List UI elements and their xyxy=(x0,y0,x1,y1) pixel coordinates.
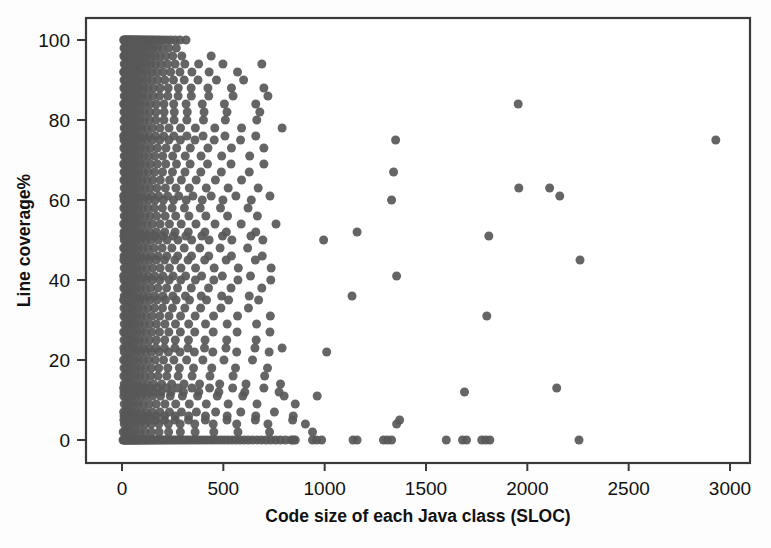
data-point xyxy=(211,408,220,417)
data-point xyxy=(191,276,200,285)
data-point xyxy=(160,400,169,409)
data-point xyxy=(161,144,170,153)
data-point xyxy=(168,152,177,161)
data-point xyxy=(164,420,173,429)
data-point xyxy=(259,84,268,93)
data-point xyxy=(164,328,173,337)
data-point xyxy=(177,220,186,229)
data-point xyxy=(165,264,174,273)
data-point xyxy=(186,144,195,153)
data-point xyxy=(177,52,186,61)
data-point xyxy=(317,436,326,445)
data-point xyxy=(176,420,185,429)
data-point xyxy=(233,428,242,437)
data-point xyxy=(222,336,231,345)
data-point xyxy=(152,336,161,345)
data-point xyxy=(242,380,251,389)
data-point xyxy=(155,136,164,145)
data-point xyxy=(155,124,164,133)
data-point xyxy=(160,256,169,265)
data-point xyxy=(156,220,165,229)
data-point xyxy=(150,244,159,253)
data-point xyxy=(263,92,272,101)
data-point xyxy=(163,364,172,373)
data-point xyxy=(199,132,208,141)
data-point xyxy=(221,344,230,353)
data-point xyxy=(187,236,196,245)
data-point xyxy=(232,420,241,429)
data-point xyxy=(217,152,226,161)
data-point xyxy=(150,204,159,213)
data-point xyxy=(148,392,157,401)
data-point xyxy=(207,364,216,373)
data-point xyxy=(181,168,190,177)
data-point xyxy=(171,60,180,69)
data-point xyxy=(246,272,255,281)
data-point xyxy=(172,144,181,153)
data-point xyxy=(159,116,168,125)
data-point xyxy=(190,136,199,145)
data-point xyxy=(156,176,165,185)
data-point xyxy=(485,436,494,445)
data-point xyxy=(217,168,226,177)
data-point xyxy=(392,420,401,429)
data-point xyxy=(263,420,272,429)
data-point xyxy=(267,264,276,273)
data-point xyxy=(229,92,238,101)
data-point xyxy=(180,244,189,253)
data-point xyxy=(202,296,211,305)
data-point xyxy=(253,212,262,221)
data-point xyxy=(152,108,161,117)
data-point xyxy=(156,84,165,93)
data-point xyxy=(200,256,209,265)
data-point xyxy=(223,320,232,329)
data-point xyxy=(576,256,585,265)
data-point xyxy=(152,100,161,109)
data-point xyxy=(175,68,184,77)
data-point xyxy=(152,400,161,409)
data-point xyxy=(260,372,269,381)
x-tick-label: 2000 xyxy=(506,478,548,499)
data-point xyxy=(162,372,171,381)
data-point xyxy=(171,184,180,193)
data-point xyxy=(257,60,266,69)
data-point xyxy=(259,160,268,169)
data-point xyxy=(514,100,523,109)
data-point xyxy=(164,348,173,357)
data-point xyxy=(322,348,331,357)
data-point xyxy=(252,400,261,409)
data-point xyxy=(222,416,231,425)
data-point xyxy=(159,196,168,205)
data-point xyxy=(174,92,183,101)
data-point xyxy=(197,152,206,161)
data-point xyxy=(220,100,229,109)
data-point xyxy=(158,204,167,213)
data-point xyxy=(205,236,214,245)
x-axis-title: Code size of each Java class (SLOC) xyxy=(265,506,570,526)
data-point xyxy=(196,304,205,313)
data-point xyxy=(201,212,210,221)
data-point xyxy=(387,436,396,445)
data-point xyxy=(165,220,174,229)
data-point xyxy=(259,384,268,393)
data-point xyxy=(162,284,171,293)
data-point xyxy=(161,296,170,305)
data-point xyxy=(168,204,177,213)
data-point xyxy=(175,364,184,373)
data-point xyxy=(168,168,177,177)
data-point xyxy=(194,60,203,69)
data-point xyxy=(224,184,233,193)
data-point xyxy=(239,76,248,85)
data-point xyxy=(153,144,162,153)
data-point xyxy=(159,356,168,365)
data-point xyxy=(252,320,261,329)
data-point xyxy=(169,100,178,109)
data-point xyxy=(187,92,196,101)
data-point xyxy=(210,124,219,133)
data-point xyxy=(209,428,218,437)
data-point xyxy=(178,392,187,401)
data-point xyxy=(221,116,230,125)
data-point xyxy=(170,256,179,265)
data-point xyxy=(257,284,266,293)
data-point xyxy=(234,264,243,273)
